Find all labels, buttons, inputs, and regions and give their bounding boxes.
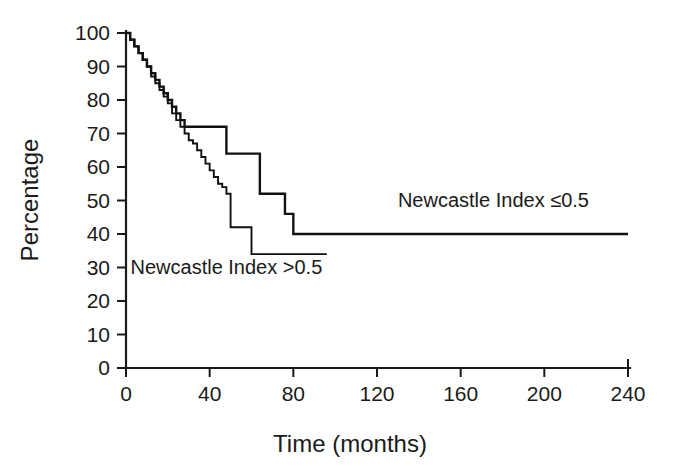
data-series-group [126, 33, 628, 254]
y-tick-label: 20 [87, 289, 110, 312]
y-tick-label: 30 [87, 256, 110, 279]
x-axis-title: Time (months) [273, 430, 427, 457]
y-tick-label: 50 [87, 189, 110, 212]
kaplan-meier-chart: 0102030405060708090100 04080120160200240… [0, 0, 677, 474]
y-tick-label: 0 [98, 356, 110, 379]
y-tick-label: 10 [87, 323, 110, 346]
x-tick-label: 80 [282, 382, 305, 405]
y-tick-label: 90 [87, 55, 110, 78]
annotation-newcastle-index-high: Newcastle Index >0.5 [131, 256, 323, 278]
x-tick-label: 40 [198, 382, 221, 405]
x-tick-label: 200 [527, 382, 562, 405]
y-tick-label: 100 [75, 21, 110, 44]
y-axis-ticks [117, 33, 126, 368]
annotation-newcastle-index-low: Newcastle Index ≤0.5 [398, 189, 589, 211]
survival-chart-figure: 0102030405060708090100 04080120160200240… [0, 0, 677, 474]
x-tick-label: 0 [120, 382, 132, 405]
y-tick-label: 70 [87, 122, 110, 145]
y-tick-label: 60 [87, 155, 110, 178]
y-axis-title: Percentage [16, 139, 43, 262]
x-tick-label: 240 [610, 382, 645, 405]
x-axis-tick-labels: 04080120160200240 [120, 382, 645, 405]
y-tick-label: 80 [87, 88, 110, 111]
x-tick-label: 120 [359, 382, 394, 405]
x-tick-label: 160 [443, 382, 478, 405]
y-axis-tick-labels: 0102030405060708090100 [75, 21, 110, 379]
y-tick-label: 40 [87, 222, 110, 245]
